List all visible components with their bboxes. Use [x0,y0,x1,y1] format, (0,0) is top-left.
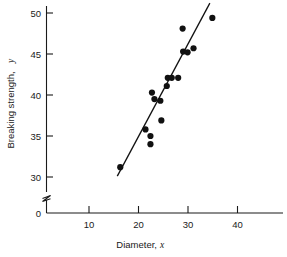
data-point [151,96,157,102]
figure-caption-sliver [0,253,287,257]
data-point [142,126,148,132]
y-tick-label-30: 30 [30,172,41,183]
data-point [190,45,196,51]
x-axis-ticks [89,206,238,213]
scatter-plot-figure: 50 45 40 35 30 0 10 20 30 40 Diameter, x… [0,0,287,257]
y-axis-ticks [47,13,54,177]
x-axis-title-variable: x [159,240,165,250]
data-point [184,49,190,55]
data-points-group [117,15,215,170]
data-point [147,133,153,139]
data-point [209,15,215,21]
x-tick-label-40: 40 [232,219,243,230]
y-axis-title-text: Breaking strength, [5,71,16,148]
data-point [157,98,163,104]
y-axis-title-variable: y [6,58,16,64]
y-axis-title: Breaking strength, y [5,58,16,149]
y-tick-label-35: 35 [30,131,41,142]
x-axis-title: Diameter, x [116,239,165,250]
y-tick-label-50: 50 [30,8,41,19]
y-axis-break-icon [43,196,51,202]
x-tick-label-20: 20 [133,219,144,230]
data-point [175,75,181,81]
x-tick-label-30: 30 [183,219,194,230]
data-point [117,164,123,170]
y-origin-label-0: 0 [36,208,41,219]
x-tick-label-10: 10 [84,219,95,230]
y-tick-label-40: 40 [30,90,41,101]
fitted-regression-line [117,3,210,176]
data-point [180,25,186,31]
y-tick-label-45: 45 [30,49,41,60]
data-point [149,89,155,95]
x-axis-title-text: Diameter, [116,239,157,250]
data-point [147,141,153,147]
plot-canvas: 50 45 40 35 30 0 10 20 30 40 Diameter, x… [0,0,287,257]
data-point [169,75,175,81]
data-point [164,83,170,89]
data-point [158,117,164,123]
